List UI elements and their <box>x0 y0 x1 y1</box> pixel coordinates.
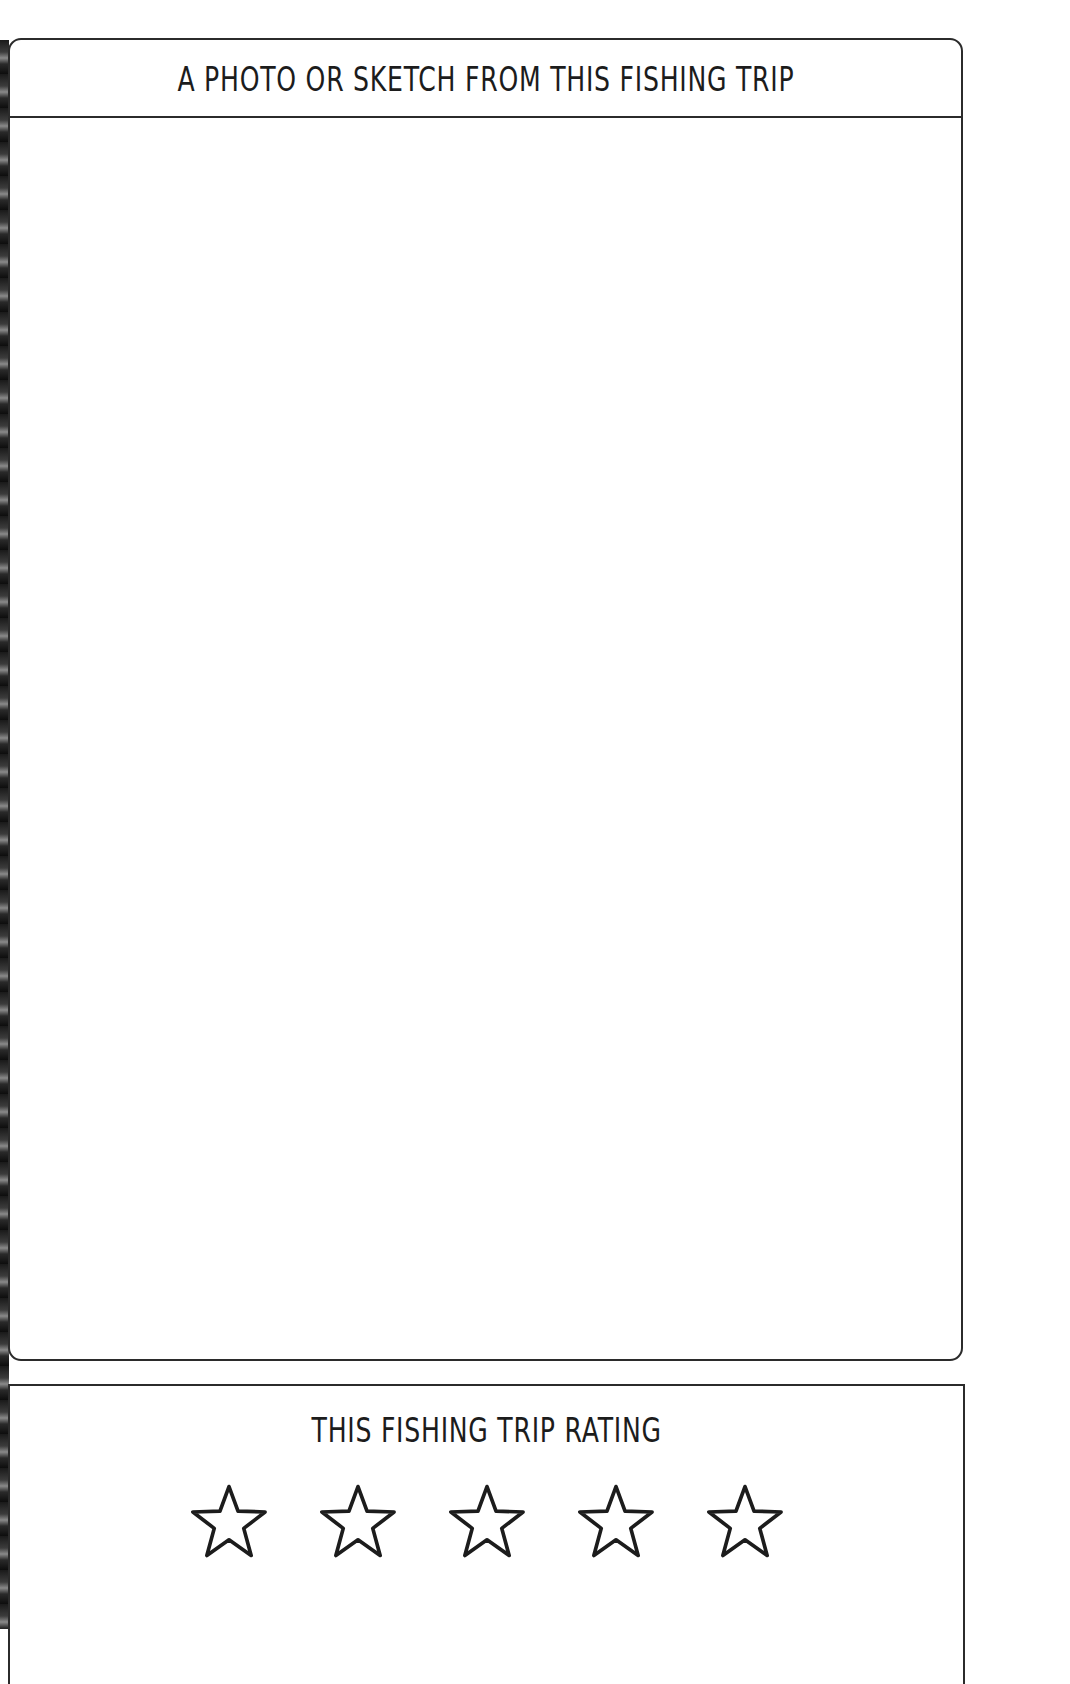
photo-sketch-panel: A PHOTO OR SKETCH FROM THIS FISHING TRIP <box>8 38 963 1361</box>
rating-panel-title: THIS FISHING TRIP RATING <box>311 1410 661 1450</box>
star-4-icon[interactable] <box>575 1480 657 1562</box>
photo-sketch-area[interactable] <box>10 118 961 1359</box>
star-rating <box>188 1480 786 1562</box>
trip-rating-panel: THIS FISHING TRIP RATING <box>8 1384 965 1684</box>
star-5-icon[interactable] <box>704 1480 786 1562</box>
star-3-icon[interactable] <box>446 1480 528 1562</box>
photo-panel-header: A PHOTO OR SKETCH FROM THIS FISHING TRIP <box>10 40 961 118</box>
star-1-icon[interactable] <box>188 1480 270 1562</box>
star-2-icon[interactable] <box>317 1480 399 1562</box>
photo-panel-title: A PHOTO OR SKETCH FROM THIS FISHING TRIP <box>177 59 794 99</box>
rating-title-wrap: THIS FISHING TRIP RATING <box>10 1408 963 1450</box>
